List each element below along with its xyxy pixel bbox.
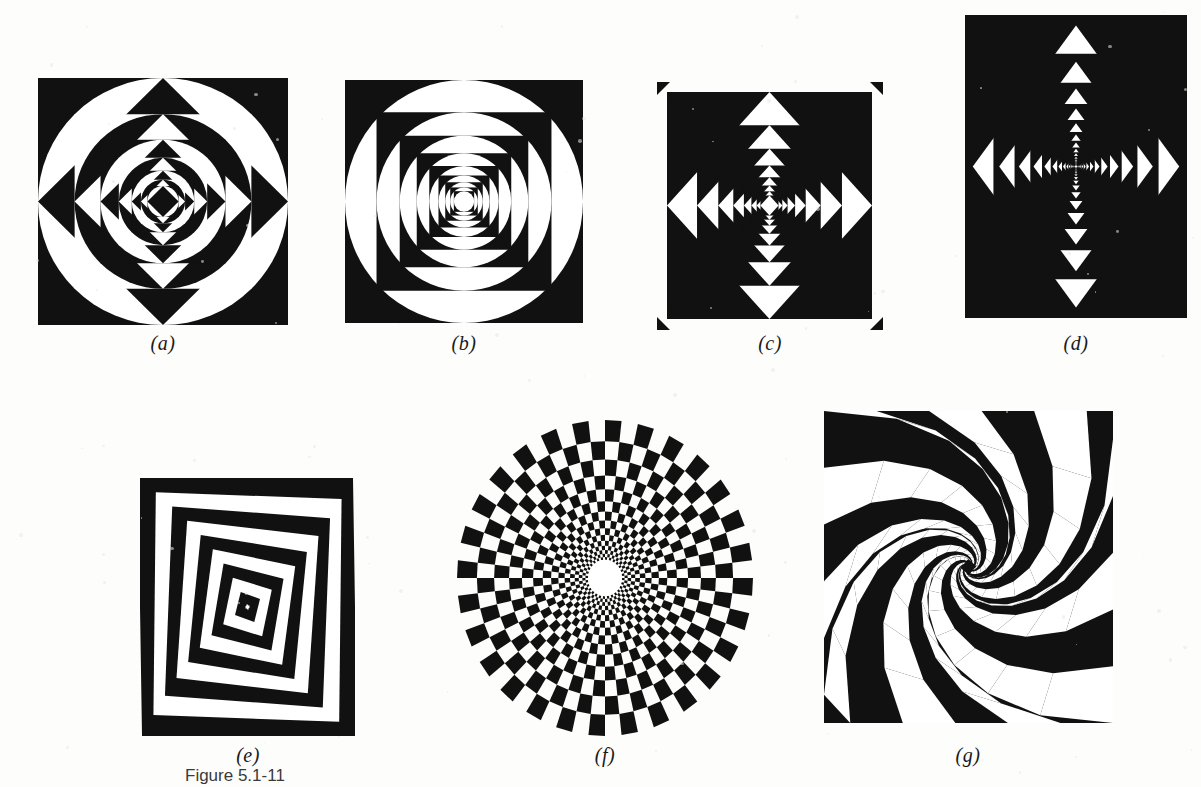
scan-speckle bbox=[399, 589, 403, 593]
scan-speckle bbox=[1169, 658, 1173, 662]
scan-speckle bbox=[980, 87, 982, 89]
scan-speckle bbox=[955, 255, 957, 257]
scan-speckle bbox=[495, 333, 499, 337]
scan-speckle bbox=[338, 736, 341, 739]
scan-speckle bbox=[19, 533, 23, 537]
scan-speckle bbox=[238, 602, 240, 604]
scan-speckle bbox=[313, 445, 316, 448]
panel-label-a: (a) bbox=[133, 332, 193, 355]
scan-speckle bbox=[308, 456, 310, 458]
scan-speckle bbox=[96, 289, 98, 291]
scan-speckle bbox=[1192, 237, 1194, 239]
scan-speckle bbox=[785, 458, 787, 460]
scan-speckle bbox=[141, 517, 142, 518]
scan-speckle bbox=[50, 63, 53, 66]
scan-speckle bbox=[254, 93, 257, 96]
scan-speckle bbox=[784, 561, 787, 564]
scan-speckle bbox=[501, 25, 504, 28]
scan-speckle bbox=[1019, 771, 1021, 773]
scan-speckle bbox=[528, 379, 531, 382]
corner-tick-c-2 bbox=[657, 317, 670, 330]
figure-panel-e bbox=[140, 478, 355, 736]
panel-label-b: (b) bbox=[434, 332, 494, 355]
scan-speckle bbox=[648, 601, 652, 605]
scan-speckle bbox=[1163, 11, 1165, 13]
scan-speckle bbox=[655, 750, 658, 753]
scan-speckle bbox=[368, 563, 370, 565]
scan-speckle bbox=[1062, 615, 1065, 618]
scan-speckle bbox=[816, 207, 820, 211]
scan-speckle bbox=[245, 592, 247, 594]
scan-speckle bbox=[103, 581, 106, 584]
scan-speckle bbox=[578, 139, 582, 143]
scan-speckle bbox=[1076, 742, 1077, 743]
scan-speckle bbox=[874, 292, 876, 294]
panel-label-d: (d) bbox=[1046, 332, 1106, 355]
scan-speckle bbox=[170, 547, 173, 550]
corner-tick-c-3 bbox=[870, 317, 883, 330]
scan-speckle bbox=[102, 445, 104, 447]
scan-speckle bbox=[768, 634, 771, 637]
figure-panel-b bbox=[345, 80, 583, 323]
scan-speckle bbox=[1148, 129, 1150, 131]
scan-speckle bbox=[1116, 230, 1119, 233]
corner-tick-c-1 bbox=[870, 82, 883, 95]
figure-page: Figure 5.1-11 (a)(b)(c)(d)(e)(f)(g) bbox=[0, 0, 1201, 787]
scan-speckle bbox=[881, 290, 885, 294]
figure-panel-d bbox=[965, 15, 1187, 318]
scan-speckle bbox=[1068, 252, 1071, 255]
scan-speckle bbox=[399, 324, 400, 325]
panel-label-f: (f) bbox=[575, 744, 635, 767]
scan-speckle bbox=[673, 393, 676, 396]
scan-speckle bbox=[1162, 355, 1164, 357]
panel-label-g: (g) bbox=[938, 744, 998, 767]
scan-speckle bbox=[112, 180, 115, 183]
scan-speckle bbox=[805, 327, 807, 329]
scan-speckle bbox=[1157, 609, 1161, 613]
figure-caption: Figure 5.1-11 bbox=[185, 766, 285, 786]
corner-tick-c-0 bbox=[657, 82, 670, 95]
scan-speckle bbox=[66, 746, 69, 749]
scan-speckle bbox=[1095, 291, 1096, 292]
scan-speckle bbox=[1191, 749, 1192, 750]
scan-speckle bbox=[201, 260, 204, 263]
scan-speckle bbox=[761, 45, 763, 47]
scan-speckle bbox=[752, 529, 756, 533]
scan-speckle bbox=[771, 368, 775, 372]
scan-speckle bbox=[795, 15, 798, 18]
scan-speckle bbox=[321, 118, 323, 120]
scan-speckle bbox=[366, 536, 369, 539]
scan-speckle bbox=[1087, 273, 1089, 275]
figure-panel-f bbox=[457, 420, 753, 736]
scan-speckle bbox=[86, 26, 89, 29]
figure-panel-a bbox=[38, 78, 288, 325]
scan-speckle bbox=[1143, 557, 1144, 558]
panel-label-e: (e) bbox=[218, 744, 278, 767]
figure-panel-g bbox=[824, 411, 1113, 723]
scan-speckle bbox=[644, 650, 647, 653]
scan-speckle bbox=[102, 553, 105, 556]
panel-label-c: (c) bbox=[740, 332, 800, 355]
scan-speckle bbox=[1184, 88, 1187, 91]
scan-speckle bbox=[1183, 646, 1186, 649]
scan-speckle bbox=[447, 691, 449, 693]
scan-speckle bbox=[794, 80, 797, 83]
scan-speckle bbox=[584, 375, 585, 376]
scan-speckle bbox=[1075, 756, 1076, 757]
scan-speckle bbox=[680, 662, 683, 665]
scan-speckle bbox=[827, 733, 829, 735]
scan-speckle bbox=[374, 215, 376, 217]
scan-speckle bbox=[81, 448, 83, 450]
figure-panel-c bbox=[667, 92, 872, 319]
scan-speckle bbox=[193, 459, 196, 462]
scan-speckle bbox=[582, 117, 586, 121]
